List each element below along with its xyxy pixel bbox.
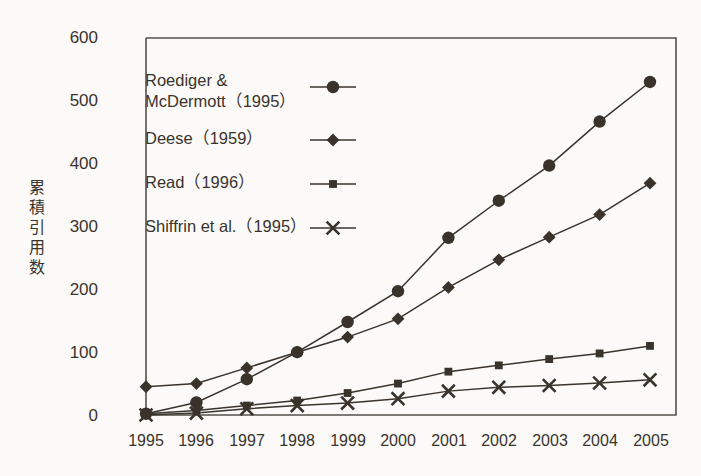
legend-marker-layer: [310, 81, 356, 235]
citation-line-chart: 累 積 引 用 数 600 500 400 300 200 100 0 1995…: [0, 0, 701, 476]
plot-frame: [146, 38, 676, 415]
legend-marker-circle: [310, 81, 356, 93]
data-point: [444, 368, 452, 376]
data-point: [644, 76, 656, 88]
series-diamond: [140, 177, 657, 393]
data-point: [493, 195, 505, 207]
series-layer: [140, 76, 657, 422]
data-point: [543, 231, 556, 244]
data-point: [543, 159, 555, 171]
plot-area: [0, 0, 701, 476]
data-point: [341, 316, 353, 328]
legend-marker-diamond: [310, 134, 356, 147]
data-point: [394, 380, 402, 388]
data-point: [341, 331, 354, 344]
data-point: [492, 253, 505, 266]
data-point: [596, 350, 604, 358]
data-point: [140, 380, 153, 393]
data-point: [392, 312, 405, 325]
data-point: [593, 208, 606, 221]
data-point: [593, 115, 605, 127]
data-point: [442, 232, 454, 244]
series-square: [142, 342, 654, 418]
data-point: [545, 355, 553, 363]
data-point: [644, 177, 657, 190]
legend-marker-square: [310, 180, 356, 188]
data-point: [240, 361, 253, 374]
legend-marker-x: [310, 222, 356, 235]
data-point: [442, 281, 455, 294]
series-circle: [140, 76, 656, 420]
data-point: [344, 389, 352, 397]
data-point: [291, 346, 304, 359]
data-point: [241, 373, 253, 385]
data-point: [646, 342, 654, 350]
series-line: [146, 82, 650, 414]
data-point: [190, 377, 203, 390]
data-point: [392, 285, 404, 297]
data-point: [495, 361, 503, 369]
